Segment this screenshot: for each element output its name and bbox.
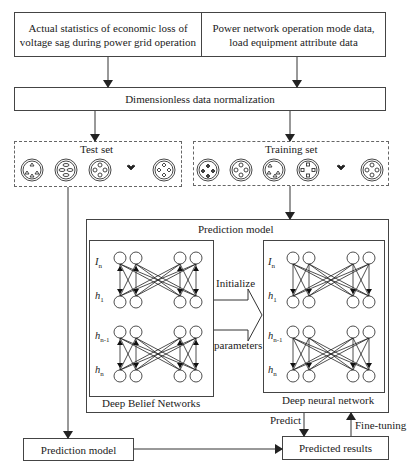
dnn-layer-hn1-label: hn-1 [268,330,283,344]
training-set-label: Training set [265,143,317,155]
normalization-box: Dimensionless data normalization [14,87,386,111]
dbn-layer-hn1-label: hn-1 [95,330,110,344]
economic-loss-line2: voltage sag during power grid operation [20,35,196,49]
predicted-results-label: Predicted results [299,441,372,455]
dbn-box [89,240,214,397]
network-data-box: Power network operation mode data, load … [201,12,386,57]
dnn-caption: Deep neural network [282,394,374,406]
test-set-label: Test set [80,143,113,155]
initialize-label: Initialize [216,277,255,289]
network-data-line1: Power network operation mode data, [212,21,374,35]
economic-loss-statistics-box: Actual statistics of economic loss of vo… [14,12,202,57]
dnn-layer-hn-label: hn [268,364,277,378]
prediction-model-box: Prediction model [23,438,134,461]
economic-loss-line1: Actual statistics of economic loss of [28,21,187,35]
dbn-layer-h1-label: h1 [95,290,104,304]
prediction-model-label: Prediction model [41,443,116,457]
dnn-layer-in-label: In [268,256,275,270]
predicted-results-box: Predicted results [282,436,389,460]
dnn-box [263,240,385,393]
parameters-label: parameters [214,339,262,351]
prediction-model-title: Prediction model [198,223,273,235]
dnn-layer-h1-label: h1 [268,290,277,304]
dbn-layer-in-label: In [95,256,102,270]
network-data-line2: load equipment attribute data [229,35,358,49]
predict-label: Predict [270,414,301,426]
fine-tuning-label: Fine-tuning [355,419,406,431]
normalization-label: Dimensionless data normalization [125,92,275,106]
dbn-layer-hn-label: hn [95,364,104,378]
dbn-caption: Deep Belief Networks [102,397,200,409]
